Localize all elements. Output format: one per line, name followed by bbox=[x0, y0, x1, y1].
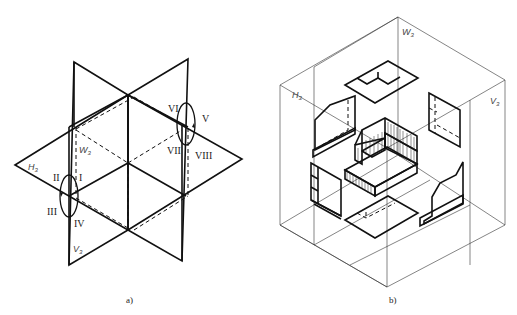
octant-label-viii: VIII bbox=[195, 150, 212, 161]
octant-label-vi: VI bbox=[168, 103, 179, 114]
bottom-view-projection bbox=[345, 196, 418, 238]
v3-label: V3 bbox=[73, 244, 83, 255]
figure-a-caption: a) bbox=[126, 295, 133, 305]
left-side-view-upper bbox=[315, 96, 355, 150]
w3-label: W3 bbox=[79, 145, 92, 156]
object-chamfer bbox=[355, 130, 362, 145]
octant-label-iv: IV bbox=[74, 218, 85, 229]
hidden-line bbox=[134, 97, 188, 128]
front-view-bottom bbox=[311, 200, 341, 216]
octant-label-iii: III bbox=[47, 206, 57, 217]
top-view-projection bbox=[345, 61, 418, 103]
right-side-view-lower bbox=[424, 162, 463, 224]
front-view-bottom-edge bbox=[314, 204, 341, 219]
front-view-step bbox=[311, 175, 318, 179]
figure-a-three-planes: H3 W3 V3 I II III IV V VI VII VIII a) bbox=[15, 59, 242, 305]
figure-b-caption: b) bbox=[389, 295, 397, 305]
right-side-base bbox=[420, 195, 463, 226]
octant-label-ii: II bbox=[53, 172, 60, 183]
front-view-step bbox=[311, 187, 318, 191]
hidden-line bbox=[134, 196, 188, 230]
h3-label: H3 bbox=[28, 162, 39, 173]
top-view-notch bbox=[357, 77, 400, 84]
cube-edge bbox=[314, 180, 430, 245]
cube-edge bbox=[314, 17, 398, 67]
v3-label-b: V3 bbox=[490, 96, 500, 107]
hidden-line bbox=[429, 108, 437, 112]
w3-label-b: W3 bbox=[402, 27, 415, 38]
object-base-front bbox=[345, 170, 375, 196]
diagram-canvas: H3 W3 V3 I II III IV V VI VII VIII a) bbox=[0, 0, 517, 315]
octant-label-i: I bbox=[79, 172, 82, 183]
w-plane bbox=[128, 59, 188, 261]
hidden-line bbox=[76, 97, 134, 129]
h3-label-b: H3 bbox=[292, 90, 303, 101]
octant-label-v: V bbox=[202, 113, 210, 124]
object-base-right bbox=[375, 164, 417, 196]
figure-b-projection-box: H3 W3 V3 b) bbox=[280, 17, 505, 305]
v-plane bbox=[69, 62, 128, 265]
cube-edge bbox=[387, 80, 505, 148]
octant-label-vii: VII bbox=[167, 145, 181, 156]
right-side-view-upper bbox=[429, 93, 460, 147]
cube-edge bbox=[350, 205, 470, 265]
